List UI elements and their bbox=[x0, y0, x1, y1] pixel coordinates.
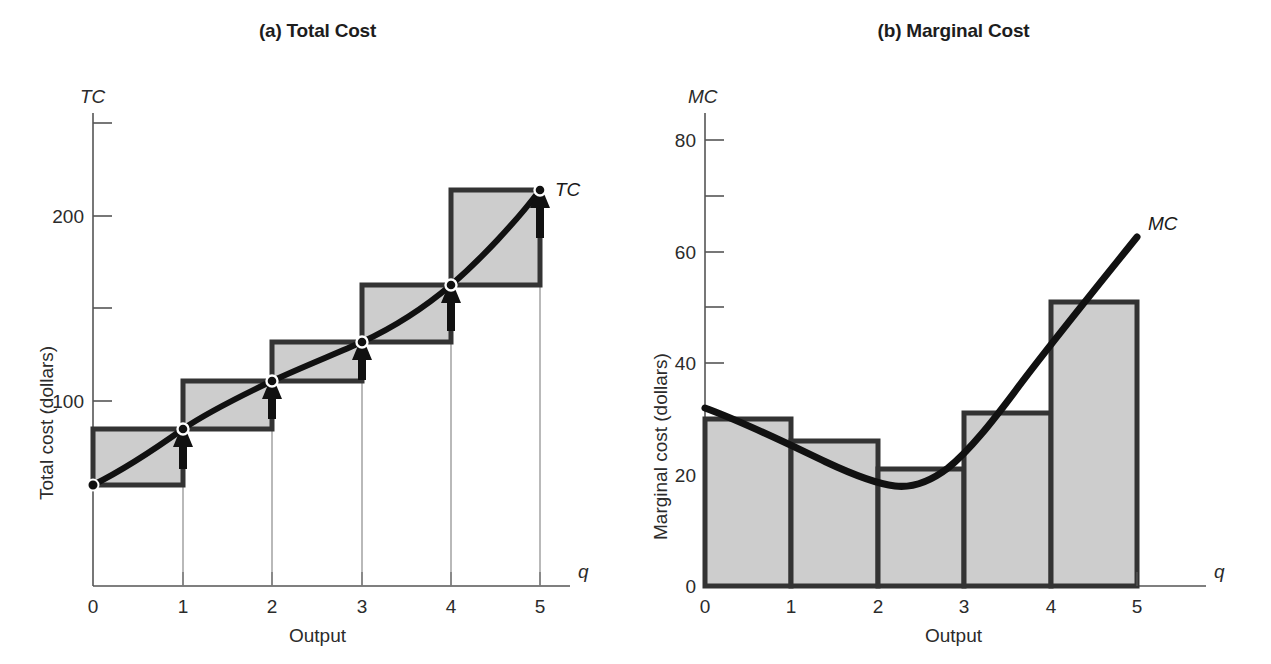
panel-b-bars bbox=[705, 302, 1137, 586]
panel-a-xtick-3: 3 bbox=[357, 596, 368, 617]
panel-a-y-axis-symbol: TC bbox=[80, 86, 106, 107]
bar-4 bbox=[1051, 302, 1137, 586]
panel-a-step-rectangles bbox=[93, 190, 540, 485]
panel-a-x-axis-symbol: q bbox=[578, 561, 589, 582]
panel-b-xtick-1: 1 bbox=[786, 596, 797, 617]
panel-b-ytick-60: 60 bbox=[675, 242, 696, 263]
panel-a-xtick-5: 5 bbox=[535, 596, 546, 617]
panel-b-ytick-20: 20 bbox=[675, 465, 696, 486]
panel-b-xtick-2: 2 bbox=[873, 596, 884, 617]
panel-a-xtick-2: 2 bbox=[267, 596, 278, 617]
panel-b-xtick-4: 4 bbox=[1046, 596, 1057, 617]
panel-total-cost: (a) Total Cost Total cost (dollars) Outp… bbox=[0, 0, 635, 664]
panel-b-ytick-0: 0 bbox=[685, 576, 696, 597]
panel-b-curve-label: MC bbox=[1148, 213, 1178, 234]
panel-b-plot: Marginal cost (dollars) MC q 0 20 40 60 … bbox=[636, 0, 1271, 664]
panel-a-curve-label: TC bbox=[555, 179, 581, 200]
panel-b-x-axis-symbol: q bbox=[1214, 561, 1225, 582]
panel-b-xtick-0: 0 bbox=[700, 596, 711, 617]
panel-b-ytick-80: 80 bbox=[675, 130, 696, 151]
panel-a-plot: TC q 100 200 bbox=[0, 0, 635, 664]
panel-a-xtick-4: 4 bbox=[446, 596, 457, 617]
panel-a-xtick-0: 0 bbox=[88, 596, 99, 617]
panel-a-ytick-100: 100 bbox=[52, 391, 84, 412]
panel-a-ytick-200: 200 bbox=[52, 206, 84, 227]
panel-marginal-cost: (b) Marginal Cost Output Marginal cost (… bbox=[636, 0, 1271, 664]
bar-0 bbox=[705, 419, 791, 586]
panel-a-xtick-1: 1 bbox=[178, 596, 189, 617]
panel-b-ytick-40: 40 bbox=[675, 353, 696, 374]
panel-a-y-ticks bbox=[93, 123, 112, 401]
panel-b-xtick-5: 5 bbox=[1132, 596, 1143, 617]
panel-b-xtick-3: 3 bbox=[959, 596, 970, 617]
panel-b-y-axis-label: Marginal cost (dollars) bbox=[650, 353, 671, 540]
panel-b-y-axis-symbol: MC bbox=[688, 86, 718, 107]
